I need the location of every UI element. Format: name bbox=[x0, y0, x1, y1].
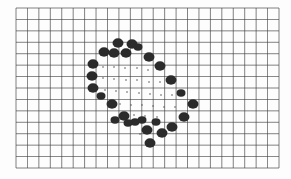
dot bbox=[152, 105, 154, 107]
dot bbox=[133, 114, 135, 116]
ink-blob bbox=[157, 128, 168, 137]
ink-blob bbox=[119, 111, 130, 120]
dot bbox=[138, 92, 140, 94]
ink-blob bbox=[111, 116, 120, 123]
dot bbox=[115, 90, 117, 92]
ink-blob bbox=[99, 47, 110, 56]
ink-blob bbox=[113, 38, 124, 47]
dot bbox=[163, 106, 165, 108]
ink-blob bbox=[138, 116, 147, 123]
ink-blob bbox=[134, 43, 143, 50]
dot bbox=[126, 91, 128, 93]
dot bbox=[171, 94, 173, 96]
ink-blob bbox=[177, 89, 186, 96]
dot bbox=[149, 93, 151, 95]
ink-blob bbox=[97, 92, 106, 99]
ink-blob bbox=[188, 99, 199, 108]
ink-blob bbox=[124, 119, 133, 126]
blob-outline bbox=[87, 38, 199, 147]
ink-blob bbox=[107, 99, 118, 108]
dot bbox=[156, 116, 158, 118]
ink-blob bbox=[87, 71, 98, 80]
dot bbox=[174, 106, 176, 108]
ink-blob bbox=[144, 52, 155, 61]
dot bbox=[141, 104, 143, 106]
ink-blob bbox=[109, 48, 120, 57]
ink-blob bbox=[88, 59, 99, 68]
ink-blob bbox=[155, 61, 166, 70]
dot bbox=[130, 104, 132, 106]
dot bbox=[159, 81, 161, 83]
dot bbox=[125, 79, 127, 81]
ink-blob bbox=[166, 75, 177, 84]
dot bbox=[147, 69, 149, 71]
ink-blob bbox=[145, 138, 156, 147]
dot bbox=[136, 67, 138, 69]
ink-blob bbox=[121, 48, 132, 57]
graph-paper-canvas bbox=[0, 0, 291, 179]
dot bbox=[136, 79, 138, 81]
dot bbox=[113, 78, 115, 80]
dot bbox=[102, 66, 104, 68]
dot bbox=[102, 77, 104, 79]
dot bbox=[104, 89, 106, 91]
ink-blob bbox=[179, 112, 190, 121]
dot bbox=[139, 133, 141, 135]
dot bbox=[124, 67, 126, 69]
dot bbox=[119, 103, 121, 105]
dot bbox=[148, 81, 150, 83]
ink-blob bbox=[152, 118, 161, 125]
dot bbox=[113, 66, 115, 68]
dot bbox=[144, 115, 146, 117]
ink-blob bbox=[88, 83, 99, 92]
dot bbox=[160, 94, 162, 96]
graph-paper-sheet bbox=[0, 0, 291, 179]
ink-blob bbox=[167, 122, 178, 131]
ink-blob bbox=[142, 125, 153, 134]
